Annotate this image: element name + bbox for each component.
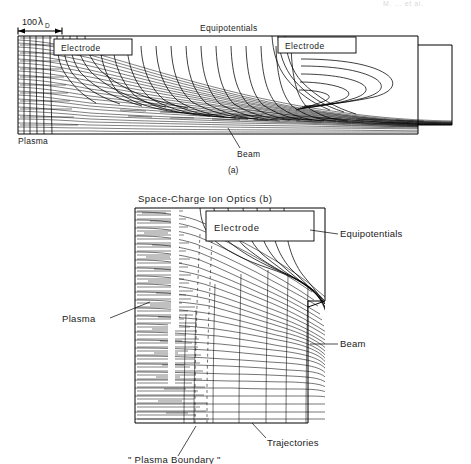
trajectories-label-b: Trajectories bbox=[267, 437, 319, 448]
electrode-label-right-a: Electrode bbox=[285, 41, 325, 51]
electrode-label-left-a: Electrode bbox=[61, 43, 101, 53]
plasma-boundary-leader-b bbox=[178, 426, 196, 456]
scale-bar-subscript-a: D bbox=[45, 22, 50, 29]
equipotentials-label-b: Equipotentials bbox=[340, 228, 403, 239]
plasma-hatching-b bbox=[137, 210, 209, 419]
plasma-label-a: Plasma bbox=[18, 136, 48, 146]
scale-bar-unit-a: λ bbox=[38, 16, 43, 27]
scale-bar-a bbox=[18, 28, 62, 35]
trajectories-leader-b bbox=[252, 423, 266, 438]
plasma-label-b: Plasma bbox=[62, 313, 96, 324]
scale-bar-value-a: 100 bbox=[22, 17, 37, 27]
electrode-label-b: Electrode bbox=[214, 222, 260, 233]
trajectory-rays-b bbox=[184, 270, 308, 423]
panel-b-title: Space-Charge Ion Optics (b) bbox=[138, 193, 272, 204]
plasma-boundary-label-b: " Plasma Boundary " bbox=[128, 454, 221, 464]
panel-a: 100 λ D Equipotentials Electrode Electro… bbox=[0, 0, 471, 175]
equipotentials-label-a: Equipotentials bbox=[200, 23, 258, 33]
plasma-leader-b bbox=[110, 302, 150, 318]
beam-label-a: Beam bbox=[237, 149, 260, 159]
beam-label-b: Beam bbox=[340, 338, 366, 349]
panel-b: Space-Charge Ion Optics (b) Electrode Eq… bbox=[0, 174, 471, 464]
figure-root: M. ... et al. bbox=[0, 0, 471, 464]
beam-leader-a bbox=[228, 128, 240, 148]
